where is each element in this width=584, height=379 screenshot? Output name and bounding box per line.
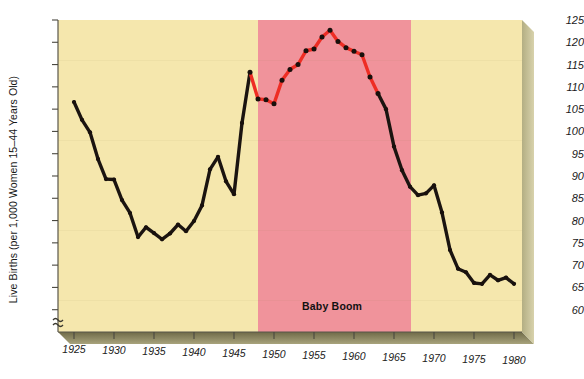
y-tick-label: 90: [538, 171, 584, 182]
birth-rate-line-chart: Live Births (per 1,000 Women 15–44 Years…: [0, 0, 584, 379]
data-point-marker: [120, 198, 124, 202]
data-point-marker: [144, 225, 148, 229]
data-point-marker: [480, 282, 484, 286]
data-point-marker: [272, 101, 277, 106]
data-point-marker: [264, 97, 269, 102]
baby-boom-highlight-region: [258, 20, 411, 332]
data-point-marker: [192, 219, 196, 223]
data-point-marker: [80, 118, 84, 122]
y-axis-ticks: [52, 20, 58, 310]
x-tick-label: 1935: [135, 346, 173, 357]
data-point-marker: [128, 211, 132, 215]
x-tick-label: 1950: [255, 349, 293, 360]
data-point-marker: [512, 282, 516, 286]
x-tick-label: 1925: [55, 344, 93, 355]
chart-canvas: [0, 0, 584, 379]
y-tick-label: 120: [538, 37, 584, 48]
data-point-marker: [464, 270, 468, 274]
data-point-marker: [312, 46, 317, 51]
data-point-marker: [104, 177, 108, 181]
data-point-marker: [232, 192, 236, 196]
data-point-marker: [336, 39, 341, 44]
data-point-marker: [88, 130, 92, 134]
data-point-marker: [224, 179, 228, 183]
data-point-marker: [200, 203, 204, 207]
data-point-marker: [320, 34, 325, 39]
data-point-marker: [240, 121, 244, 125]
y-tick-label: 110: [538, 82, 584, 93]
data-point-marker: [424, 191, 428, 195]
y-tick-label: 105: [538, 104, 584, 115]
data-point-marker: [112, 177, 116, 181]
data-point-marker: [400, 168, 404, 172]
x-tick-label: 1975: [455, 354, 493, 365]
data-point-marker: [408, 185, 412, 189]
data-point-marker: [152, 231, 156, 235]
x-tick-label: 1965: [375, 352, 413, 363]
data-point-marker: [72, 100, 76, 104]
data-point-marker: [360, 52, 365, 57]
x-tick-label: 1955: [295, 350, 333, 361]
y-tick-label: 125: [538, 15, 584, 26]
data-point-marker: [208, 167, 212, 171]
data-point-marker: [488, 273, 492, 277]
y-tick-label: 80: [538, 216, 584, 227]
data-point-marker: [456, 267, 460, 271]
data-point-marker: [280, 78, 285, 83]
data-point-marker: [504, 276, 508, 280]
x-tick-label: 1970: [415, 353, 453, 364]
y-tick-label: 115: [538, 60, 584, 71]
data-point-marker: [352, 49, 357, 54]
data-point-marker: [376, 91, 381, 96]
data-point-marker: [432, 183, 436, 187]
data-point-marker: [288, 67, 293, 72]
data-point-marker: [368, 75, 373, 80]
data-point-marker: [184, 229, 188, 233]
y-tick-label: 85: [538, 193, 584, 204]
y-tick-label: 60: [538, 305, 584, 316]
y-tick-label: 95: [538, 149, 584, 160]
x-tick-label: 1980: [495, 355, 533, 366]
x-tick-label: 1960: [335, 351, 373, 362]
data-point-marker: [96, 157, 100, 161]
data-point-marker: [416, 193, 420, 197]
y-tick-label: 70: [538, 260, 584, 271]
x-tick-label: 1930: [95, 345, 133, 356]
data-point-marker: [384, 107, 388, 111]
data-point-marker: [440, 210, 444, 214]
data-point-marker: [472, 281, 476, 285]
plot-bevel-bottom: [58, 332, 534, 344]
data-point-marker: [176, 222, 180, 226]
data-point-marker: [496, 278, 500, 282]
plot-bevel-right: [522, 20, 534, 344]
data-point-marker: [296, 62, 301, 67]
data-point-marker: [256, 96, 261, 101]
data-point-marker: [248, 70, 253, 75]
baby-boom-annotation-label: Baby Boom: [302, 300, 362, 312]
y-tick-label: 100: [538, 126, 584, 137]
data-point-marker: [344, 45, 349, 50]
x-tick-label: 1940: [175, 347, 213, 358]
data-point-marker: [328, 28, 333, 33]
data-point-marker: [304, 48, 309, 53]
data-point-marker: [168, 231, 172, 235]
data-point-marker: [448, 248, 452, 252]
y-tick-label: 75: [538, 238, 584, 249]
data-point-marker: [216, 155, 220, 159]
data-point-marker: [160, 237, 164, 241]
y-tick-label: 65: [538, 282, 584, 293]
data-point-marker: [392, 144, 396, 148]
data-point-marker: [136, 235, 140, 239]
x-tick-label: 1945: [215, 348, 253, 359]
